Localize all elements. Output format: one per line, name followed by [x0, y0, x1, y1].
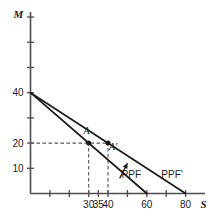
data-point-label-A-prime: A' [108, 141, 118, 152]
x-axis-label: S [201, 198, 207, 210]
ppf-shift-chart: 1020403035406080SMPPFPPF'AA' [0, 0, 215, 218]
y-tick-label-20: 20 [12, 138, 24, 149]
series-label-PPF-prime: PPF' [161, 169, 182, 180]
y-axis-label: M [13, 8, 25, 20]
series-label-PPF: PPF [122, 169, 141, 180]
x-tick-label-80: 80 [180, 199, 192, 210]
y-tick-label-10: 10 [12, 163, 24, 174]
y-tick-label-40: 40 [12, 87, 24, 98]
x-tick-label-60: 60 [141, 199, 153, 210]
data-point-label-A: A [83, 125, 91, 136]
x-tick-label-40: 40 [102, 199, 114, 210]
data-point-A [86, 141, 91, 146]
chart-canvas: 1020403035406080SMPPFPPF'AA' [0, 0, 215, 218]
